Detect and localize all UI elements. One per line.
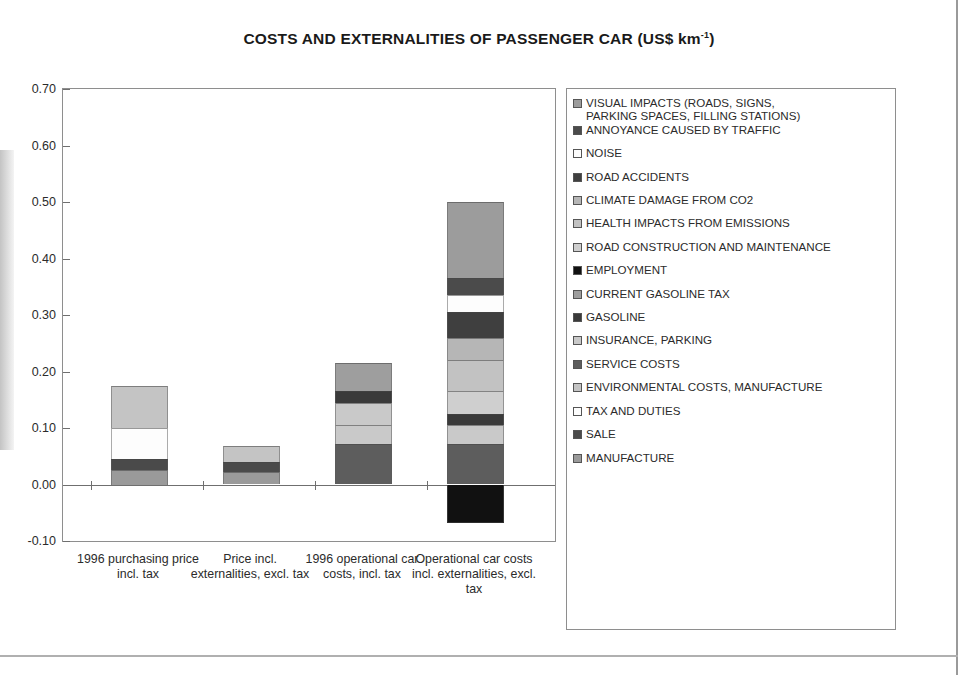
- scan-artifact: [0, 150, 14, 450]
- legend-label: CLIMATE DAMAGE FROM CO2: [586, 193, 753, 206]
- chart-legend: VISUAL IMPACTS (ROADS, SIGNS, PARKING SP…: [566, 88, 896, 630]
- legend-swatch-icon: [573, 360, 582, 369]
- x-axis-label: 1996 operational car costs, incl. tax: [300, 552, 424, 582]
- y-tick-label: 0.60: [32, 139, 56, 153]
- legend-swatch-icon: [573, 266, 582, 275]
- y-tick-mark: [63, 259, 70, 260]
- legend-swatch-icon: [573, 407, 582, 416]
- legend-label: GASOLINE: [586, 310, 645, 323]
- legend-item[interactable]: NOISE: [573, 146, 895, 159]
- chart-title-tail: ): [709, 30, 714, 47]
- legend-item[interactable]: MANUFACTURE: [573, 451, 895, 464]
- bar-segment: [111, 386, 168, 428]
- bar-segment: [223, 446, 280, 462]
- x-axis-label: Price incl. externalities, excl. tax: [188, 552, 312, 582]
- bar-segment: [223, 472, 280, 484]
- legend-swatch-icon: [573, 430, 582, 439]
- legend-item[interactable]: GASOLINE: [573, 310, 895, 323]
- plot-inner: 0.700.600.500.400.300.200.100.00-0.10: [63, 89, 555, 541]
- legend-item[interactable]: SERVICE COSTS: [573, 357, 895, 370]
- legend-swatch-icon: [573, 149, 582, 158]
- y-tick-mark: [63, 428, 70, 429]
- legend-item[interactable]: SALE: [573, 427, 895, 440]
- legend-swatch-icon: [573, 290, 582, 299]
- legend-item[interactable]: HEALTH IMPACTS FROM EMISSIONS: [573, 216, 895, 229]
- y-tick-label: 0.70: [32, 82, 56, 96]
- y-tick-label: 0.50: [32, 195, 56, 209]
- bar-segment: [335, 363, 392, 391]
- bar-segment: [447, 338, 504, 361]
- y-tick-mark: [63, 202, 70, 203]
- bar-1: [111, 89, 168, 541]
- legend-label: MANUFACTURE: [586, 451, 674, 464]
- legend-swatch-icon: [573, 99, 582, 108]
- bar-segment: [447, 391, 504, 414]
- chart-title: COSTS AND EXTERNALITIES OF PASSENGER CAR…: [0, 30, 958, 48]
- bar-segment: [111, 470, 168, 484]
- bar-segment: [447, 312, 504, 337]
- legend-item[interactable]: ANNOYANCE CAUSED BY TRAFFIC: [573, 123, 895, 136]
- y-tick-mark: [63, 541, 70, 542]
- y-tick-label: 0.10: [32, 421, 56, 435]
- legend-label: INSURANCE, PARKING: [586, 333, 712, 346]
- chart-title-main: COSTS AND EXTERNALITIES OF PASSENGER CAR…: [243, 30, 700, 47]
- legend-label: EMPLOYMENT: [586, 263, 667, 276]
- bar-3: [335, 89, 392, 541]
- legend-swatch-icon: [573, 196, 582, 205]
- x-axis-labels: 1996 purchasing price incl. taxPrice inc…: [62, 552, 556, 662]
- y-tick-mark: [63, 315, 70, 316]
- legend-label: TAX AND DUTIES: [586, 404, 680, 417]
- bar-segment: [335, 391, 392, 402]
- y-tick-label: 0.30: [32, 308, 56, 322]
- legend-item[interactable]: EMPLOYMENT: [573, 263, 895, 276]
- bar-segment: [111, 428, 168, 459]
- y-tick-mark: [63, 146, 70, 147]
- chart-title-exponent: -1: [701, 30, 709, 40]
- legend-swatch-icon: [573, 313, 582, 322]
- bar-segment: [447, 360, 504, 391]
- y-tick-label: 0.00: [32, 478, 56, 492]
- bar-segment: [335, 444, 392, 485]
- legend-swatch-icon: [573, 383, 582, 392]
- x-tick-mark: [315, 481, 316, 490]
- x-tick-mark: [427, 481, 428, 490]
- legend-item[interactable]: ENVIRONMENTAL COSTS, MANUFACTURE: [573, 380, 895, 393]
- legend-label: VISUAL IMPACTS (ROADS, SIGNS, PARKING SP…: [586, 96, 800, 123]
- legend-item[interactable]: VISUAL IMPACTS (ROADS, SIGNS, PARKING SP…: [573, 96, 895, 123]
- x-tick-mark: [91, 481, 92, 490]
- legend-item[interactable]: CLIMATE DAMAGE FROM CO2: [573, 193, 895, 206]
- legend-swatch-icon: [573, 454, 582, 463]
- legend-item[interactable]: TAX AND DUTIES: [573, 404, 895, 417]
- bar-segment: [335, 403, 392, 426]
- legend-label: HEALTH IMPACTS FROM EMISSIONS: [586, 216, 790, 229]
- y-tick-label: -0.10: [28, 534, 57, 548]
- legend-item[interactable]: ROAD ACCIDENTS: [573, 170, 895, 183]
- legend-swatch-icon: [573, 336, 582, 345]
- legend-label: NOISE: [586, 146, 622, 159]
- bar-segment: [223, 462, 280, 472]
- bar-2: [223, 89, 280, 541]
- legend-item[interactable]: CURRENT GASOLINE TAX: [573, 287, 895, 300]
- legend-label: ENVIRONMENTAL COSTS, MANUFACTURE: [586, 380, 822, 393]
- legend-item[interactable]: INSURANCE, PARKING: [573, 333, 895, 346]
- legend-label: SERVICE COSTS: [586, 357, 680, 370]
- legend-label: CURRENT GASOLINE TAX: [586, 287, 730, 300]
- bar-segment: [447, 202, 504, 278]
- legend-item[interactable]: ROAD CONSTRUCTION AND MAINTENANCE: [573, 240, 895, 253]
- y-tick-mark: [63, 89, 70, 90]
- x-tick-mark: [203, 481, 204, 490]
- legend-swatch-icon: [573, 173, 582, 182]
- legend-swatch-icon: [573, 219, 582, 228]
- legend-label: ROAD CONSTRUCTION AND MAINTENANCE: [586, 240, 831, 253]
- bar-segment: [335, 425, 392, 444]
- legend-label: ROAD ACCIDENTS: [586, 170, 689, 183]
- bar-segment: [447, 278, 504, 295]
- bar-segment: [447, 425, 504, 444]
- legend-label: ANNOYANCE CAUSED BY TRAFFIC: [586, 123, 781, 136]
- x-axis-label: Operational car costs incl. externalitie…: [412, 552, 536, 597]
- bar-segment: [447, 414, 504, 425]
- plot-area: 0.700.600.500.400.300.200.100.00-0.10: [62, 88, 556, 542]
- y-tick-mark: [63, 372, 70, 373]
- bar-segment: [447, 295, 504, 312]
- legend-swatch-icon: [573, 243, 582, 252]
